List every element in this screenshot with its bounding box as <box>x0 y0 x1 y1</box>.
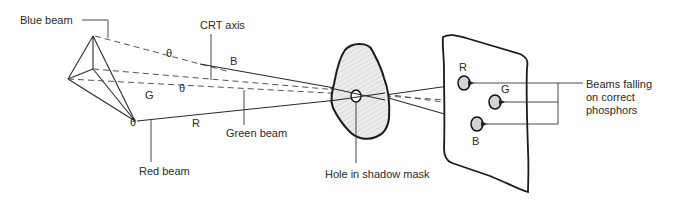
electron-gun-assembly <box>68 36 135 121</box>
blue-beam <box>95 36 476 123</box>
green-beam <box>68 79 493 103</box>
crt-diagram: θ θ θ B G R R G B Blue b <box>0 0 677 202</box>
phosphor-letter-g: G <box>501 83 510 95</box>
label-hole-in-shadow-mask: Hole in shadow mask <box>325 168 430 180</box>
shadow-mask-hole <box>351 90 361 102</box>
theta-green: θ <box>179 82 185 94</box>
leader-lines <box>82 20 356 163</box>
beam-letter-g: G <box>145 89 154 101</box>
phosphor-screen <box>443 35 529 192</box>
phosphor-letter-b: B <box>472 135 479 147</box>
red-beam <box>137 84 463 121</box>
phosphor-b <box>471 117 483 131</box>
label-crt-axis: CRT axis <box>200 19 245 31</box>
phosphor-r <box>458 76 470 90</box>
label-red-beam: Red beam <box>139 165 190 177</box>
label-green-beam: Green beam <box>226 127 287 139</box>
label-beams-falling-line1: Beams falling <box>586 78 652 90</box>
label-beams-falling-line3: phosphors <box>586 104 638 116</box>
phosphor-g <box>489 95 501 109</box>
theta-blue: θ <box>166 47 172 59</box>
theta-red: θ <box>130 116 136 128</box>
label-blue-beam: Blue beam <box>20 14 73 26</box>
label-beams-falling-line2: on correct <box>586 91 635 103</box>
shadow-mask <box>331 44 389 139</box>
beam-letter-r: R <box>192 117 200 129</box>
beam-letter-b: B <box>230 55 237 67</box>
phosphor-letter-r: R <box>459 61 467 73</box>
